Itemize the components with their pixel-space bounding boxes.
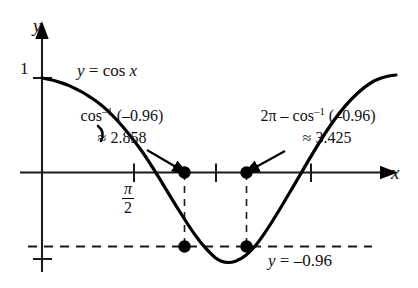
left-solution-exponent: –1 <box>102 105 113 117</box>
pi-over-2-denominator: 2 <box>122 199 134 216</box>
point-curve-left <box>178 240 190 252</box>
curve-equation-variable: x <box>130 61 138 80</box>
curve-equation-operator: = cos <box>89 61 126 80</box>
curve-equation-label: y = cos x <box>77 62 137 80</box>
pi-over-2-numerator: π <box>122 181 134 199</box>
right-solution-annotation: 2π – cos–1 (–0.96) ≈ 3.425 <box>228 108 408 147</box>
right-solution-prefix: 2π – cos <box>261 107 314 124</box>
x-tick-label-pi-over-2: π 2 <box>122 181 134 216</box>
leader-arrow-right <box>256 151 285 167</box>
right-solution-argument: (–0.96) <box>329 107 376 124</box>
horizontal-line-label: y = –0.96 <box>268 252 332 270</box>
left-solution-line-1: cos–1 (–0.96) <box>52 108 192 125</box>
horizontal-line-lhs: y <box>268 251 276 270</box>
horizontal-line-rhs: = –0.96 <box>280 251 332 270</box>
curve-equation-lhs: y <box>77 61 85 80</box>
point-x-axis-left <box>178 166 190 178</box>
left-solution-function: cos <box>81 107 102 124</box>
left-solution-annotation: cos–1 (–0.96) ≈ 2.858 <box>52 108 192 147</box>
cosine-curve <box>42 75 396 262</box>
right-solution-line-2: ≈ 3.425 <box>246 130 408 147</box>
left-solution-argument: (–0.96) <box>117 107 164 124</box>
right-solution-line-1: 2π – cos–1 (–0.96) <box>228 108 408 125</box>
point-curve-right <box>240 240 252 252</box>
y-tick-label-one: 1 <box>20 60 29 78</box>
cosine-graph-figure: y x 1 π 2 y = cos x cos–1 (–0.96) ≈ 2.85… <box>0 0 418 288</box>
right-solution-exponent: –1 <box>314 105 325 117</box>
point-x-axis-right <box>240 166 252 178</box>
y-axis-label: y <box>33 16 41 36</box>
left-solution-line-2: ≈ 2.858 <box>52 130 192 147</box>
x-axis-label: x <box>391 163 399 183</box>
